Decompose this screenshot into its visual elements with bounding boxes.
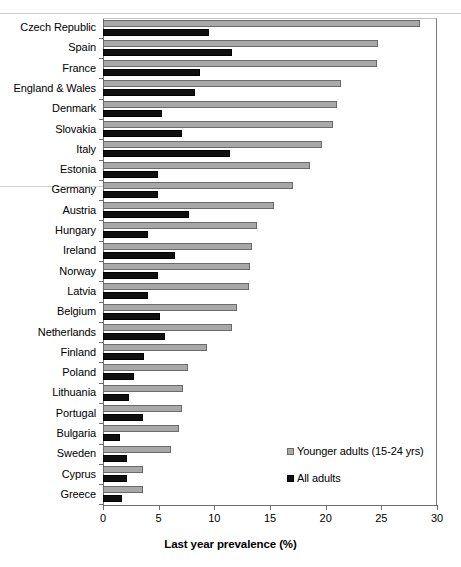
y-axis-label: Czech Republic (20, 22, 96, 33)
bar-row: Portugal (103, 404, 437, 424)
y-axis-label: Austria (62, 205, 96, 216)
bar-younger-adults (103, 324, 232, 331)
bar-all-adults (103, 211, 189, 218)
bar-row: Estonia (103, 160, 437, 180)
y-axis-label: Ireland (63, 245, 96, 256)
bar-all-adults (103, 313, 160, 320)
y-axis-label: Latvia (67, 286, 96, 297)
legend-item-younger-adults: Younger adults (15-24 yrs) (287, 446, 424, 457)
legend-label-younger-adults: Younger adults (15-24 yrs) (297, 446, 424, 457)
bar-younger-adults (103, 425, 179, 432)
bar-row: Denmark (103, 99, 437, 119)
y-axis-label: Estonia (60, 164, 96, 175)
bar-younger-adults (103, 60, 377, 67)
bar-row: Ireland (103, 241, 437, 261)
legend-swatch-icon-all-adults (287, 475, 294, 482)
legend-item-all-adults: All adults (287, 473, 424, 484)
bar-younger-adults (103, 80, 341, 87)
y-axis-label: Spain (68, 42, 96, 53)
legend: Younger adults (15-24 yrs) All adults (287, 446, 424, 500)
bar-all-adults (103, 130, 182, 137)
x-axis-tick (103, 505, 104, 510)
bar-all-adults (103, 171, 158, 178)
bar-all-adults (103, 333, 165, 340)
x-axis-tick-label: 15 (264, 513, 276, 524)
bar-all-adults (103, 353, 144, 360)
y-axis-label: Germany (51, 184, 96, 195)
y-axis-label: Denmark (52, 103, 96, 114)
y-axis-label: Poland (62, 367, 96, 378)
bar-all-adults (103, 231, 148, 238)
bar-all-adults (103, 252, 175, 259)
bar-all-adults (103, 49, 232, 56)
x-axis-tick (381, 505, 382, 510)
bar-younger-adults (103, 141, 322, 148)
bar-all-adults (103, 292, 148, 299)
bar-younger-adults (103, 364, 188, 371)
y-axis-label: Slovakia (55, 124, 96, 135)
y-axis-label: Cyprus (62, 469, 96, 480)
bar-all-adults (103, 495, 122, 502)
bar-row: Czech Republic (103, 18, 437, 38)
bar-younger-adults (103, 466, 143, 473)
plot-area: Czech RepublicSpainFranceEngland & Wales… (103, 18, 437, 505)
x-axis-tick-label: 30 (431, 513, 443, 524)
bar-younger-adults (103, 446, 171, 453)
bar-row: Bulgaria (103, 424, 437, 444)
chart-page: Czech RepublicSpainFranceEngland & Wales… (0, 0, 461, 567)
bar-younger-adults (103, 20, 420, 27)
x-axis-tick (214, 505, 215, 510)
y-axis-label: Greece (61, 489, 96, 500)
bar-younger-adults (103, 222, 257, 229)
bar-all-adults (103, 89, 195, 96)
bar-row: Lithuania (103, 383, 437, 403)
y-axis-label: Lithuania (52, 387, 96, 398)
bar-row: Italy (103, 140, 437, 160)
bar-younger-adults (103, 304, 237, 311)
bar-all-adults (103, 414, 143, 421)
bar-row: Poland (103, 363, 437, 383)
bar-younger-adults (103, 101, 337, 108)
scan-rule-top (0, 13, 461, 14)
x-axis-tick-label: 5 (156, 513, 162, 524)
bar-all-adults (103, 394, 129, 401)
bar-all-adults (103, 434, 120, 441)
y-axis-label: France (62, 63, 96, 74)
bar-younger-adults (103, 182, 293, 189)
y-axis-label: Portugal (56, 408, 96, 419)
x-axis-tick (326, 505, 327, 510)
bar-younger-adults (103, 405, 182, 412)
bar-row: Slovakia (103, 119, 437, 139)
x-axis-tick (437, 505, 438, 510)
bar-younger-adults (103, 385, 183, 392)
bar-all-adults (103, 191, 158, 198)
bar-row: France (103, 59, 437, 79)
bar-row: Spain (103, 38, 437, 58)
bar-younger-adults (103, 486, 143, 493)
bar-row: Belgium (103, 302, 437, 322)
bar-younger-adults (103, 202, 274, 209)
bar-younger-adults (103, 344, 207, 351)
bar-younger-adults (103, 263, 250, 270)
bar-row: Germany (103, 180, 437, 200)
x-axis-tick-label: 0 (100, 513, 106, 524)
bar-all-adults (103, 150, 230, 157)
y-axis-label: Belgium (57, 306, 96, 317)
x-axis-tick (270, 505, 271, 510)
bar-younger-adults (103, 162, 310, 169)
bar-all-adults (103, 69, 200, 76)
y-axis-label: Finland (61, 347, 96, 358)
bar-row: Hungary (103, 221, 437, 241)
y-axis-label: England & Wales (14, 83, 96, 94)
x-axis-tick-label: 20 (320, 513, 332, 524)
y-axis-label: Sweden (57, 448, 96, 459)
x-axis-tick-label: 10 (208, 513, 220, 524)
x-axis-tick-label: 25 (375, 513, 387, 524)
bar-all-adults (103, 272, 158, 279)
bar-all-adults (103, 110, 162, 117)
bar-row: Norway (103, 262, 437, 282)
bar-row: Latvia (103, 282, 437, 302)
bar-younger-adults (103, 283, 249, 290)
bar-row: Netherlands (103, 322, 437, 342)
bar-row: Austria (103, 201, 437, 221)
